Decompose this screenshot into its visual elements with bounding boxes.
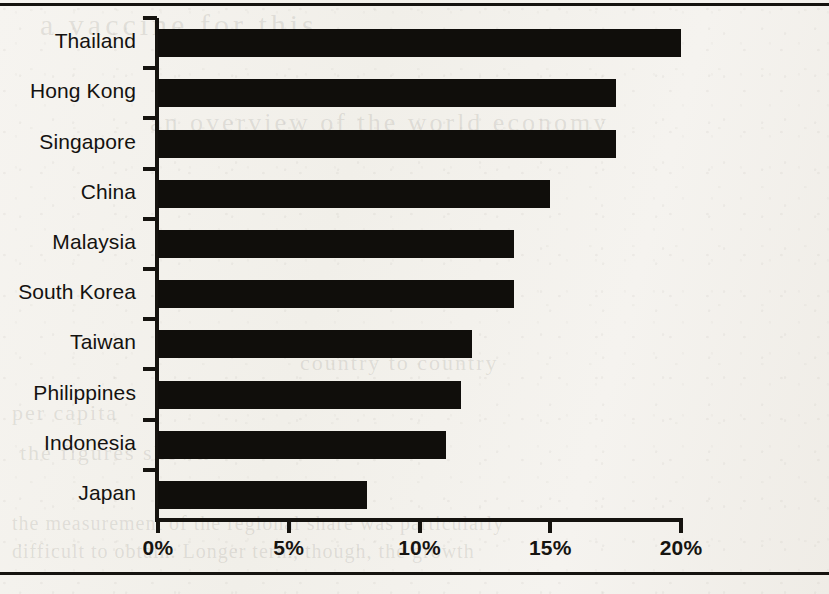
category-label: Singapore <box>0 130 136 154</box>
y-axis-tick <box>143 468 157 472</box>
y-axis-tick <box>143 217 157 221</box>
category-label: Taiwan <box>0 330 136 354</box>
y-axis-tick <box>143 16 157 20</box>
bar <box>158 431 446 459</box>
category-label: Philippines <box>0 381 136 405</box>
bar <box>158 79 616 107</box>
x-axis-tick-label: 10% <box>398 536 441 560</box>
x-axis-tick <box>548 518 552 533</box>
category-label: Malaysia <box>0 230 136 254</box>
x-axis-tick-label: 20% <box>660 536 703 560</box>
x-axis-tick <box>418 518 422 533</box>
category-label: Indonesia <box>0 431 136 455</box>
category-label: China <box>0 180 136 204</box>
y-axis-tick <box>143 116 157 120</box>
category-label: Japan <box>0 481 136 505</box>
x-axis-tick <box>156 518 160 533</box>
x-axis-tick <box>287 518 291 533</box>
bar <box>158 130 616 158</box>
bar <box>158 381 461 409</box>
category-label: Thailand <box>0 29 136 53</box>
y-axis-tick <box>143 66 157 70</box>
y-axis-tick <box>143 317 157 321</box>
bar <box>158 481 367 509</box>
y-axis-tick <box>143 267 157 271</box>
bar <box>158 29 681 57</box>
x-axis-tick-label: 15% <box>529 536 572 560</box>
scanned-page: a vaccine for this an overview of the wo… <box>0 0 829 594</box>
y-axis-tick <box>143 418 157 422</box>
x-axis-tick-label: 5% <box>273 536 304 560</box>
bar-chart: 0%5%10%15%20% ThailandHong KongSingapore… <box>0 0 829 594</box>
bar <box>158 330 472 358</box>
bar <box>158 180 550 208</box>
x-axis-tick-label: 0% <box>143 536 174 560</box>
category-label: Hong Kong <box>0 79 136 103</box>
x-axis-tick <box>679 518 683 533</box>
category-label: South Korea <box>0 280 136 304</box>
y-axis-tick <box>143 367 157 371</box>
bar <box>158 230 514 258</box>
bar <box>158 280 514 308</box>
y-axis-tick <box>143 167 157 171</box>
